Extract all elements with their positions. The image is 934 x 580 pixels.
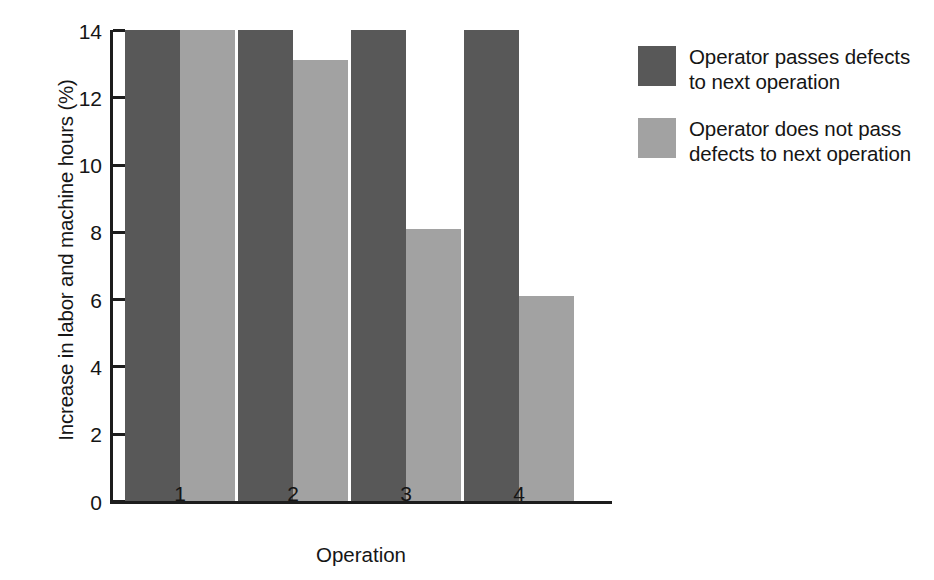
y-tick-label: 14 bbox=[79, 20, 102, 41]
x-tick-label: 3 bbox=[400, 483, 412, 504]
bar[interactable] bbox=[125, 30, 180, 501]
y-tick: 2 bbox=[113, 433, 125, 436]
bar[interactable] bbox=[519, 296, 574, 501]
legend-label-line: defects to next operation bbox=[689, 141, 911, 166]
x-tick-label: 2 bbox=[287, 483, 299, 504]
y-tick-label: 8 bbox=[90, 222, 102, 243]
legend-swatch-icon bbox=[638, 46, 676, 86]
y-tick-label: 6 bbox=[90, 289, 102, 310]
y-tick: 6 bbox=[113, 298, 125, 301]
bar-group bbox=[125, 30, 235, 501]
bar-group bbox=[351, 30, 461, 501]
bar-group bbox=[238, 30, 348, 501]
bar[interactable] bbox=[293, 60, 348, 501]
bars-layer bbox=[113, 30, 612, 501]
y-tick: 12 bbox=[113, 96, 125, 99]
legend-label-line: Operator passes defects bbox=[689, 44, 910, 69]
y-tick: 0 bbox=[113, 500, 125, 503]
legend-item: Operator passes defects to next operatio… bbox=[638, 44, 934, 94]
y-tick-label: 4 bbox=[90, 356, 102, 377]
bar[interactable] bbox=[238, 30, 293, 501]
y-tick-label: 10 bbox=[79, 155, 102, 176]
legend-label: Operator passes defects to next operatio… bbox=[689, 44, 910, 94]
legend-label-line: to next operation bbox=[689, 69, 910, 94]
x-tick-label: 1 bbox=[174, 483, 186, 504]
y-tick: 14 bbox=[113, 29, 125, 32]
chart-legend: Operator passes defects to next operatio… bbox=[638, 44, 934, 188]
plot-area: 02468101214 bbox=[110, 30, 612, 504]
y-tick-label: 0 bbox=[90, 491, 102, 512]
legend-swatch-icon bbox=[638, 118, 676, 158]
legend-item: Operator does not pass defects to next o… bbox=[638, 116, 934, 166]
bar[interactable] bbox=[180, 30, 235, 501]
y-axis-title: Increase in labor and machine hours (%) bbox=[46, 0, 86, 520]
y-tick: 4 bbox=[113, 365, 125, 368]
legend-label-line: Operator does not pass bbox=[689, 116, 911, 141]
legend-label: Operator does not pass defects to next o… bbox=[689, 116, 911, 166]
y-tick: 10 bbox=[113, 164, 125, 167]
bar[interactable] bbox=[406, 229, 461, 502]
bar[interactable] bbox=[351, 30, 406, 501]
x-axis-title: Operation bbox=[110, 543, 612, 567]
bar[interactable] bbox=[464, 30, 519, 501]
y-tick-label: 12 bbox=[79, 87, 102, 108]
bar-group bbox=[464, 30, 574, 501]
x-tick-label: 4 bbox=[513, 483, 525, 504]
chart-page: Increase in labor and machine hours (%) … bbox=[0, 0, 934, 580]
y-tick-label: 2 bbox=[90, 424, 102, 445]
y-tick: 8 bbox=[113, 231, 125, 234]
